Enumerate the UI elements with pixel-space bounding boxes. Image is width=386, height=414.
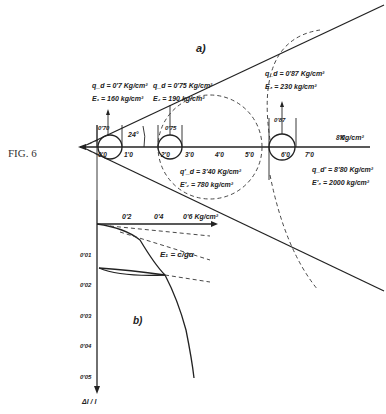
tick-8: 8'0	[336, 134, 345, 141]
up-arrow-icon	[280, 101, 284, 107]
y-tick-5: 0'05	[80, 374, 92, 380]
circle-3-width: 0'87	[274, 117, 286, 123]
angle-label: 24°	[127, 131, 139, 138]
x-tick-1: 0'2	[122, 213, 132, 220]
y-tick-2: 0'02	[80, 282, 92, 288]
tick-1: 1'0	[124, 151, 133, 158]
x-tick-3: 0'6 Kg/cm²	[183, 213, 219, 221]
dashed-circle-3-qd: q_d' = 8'80 Kg/cm²	[312, 166, 374, 174]
tick-3: 3'0	[185, 151, 194, 158]
circle-3-qd: q_d = 0'87 Kg/cm²	[265, 70, 325, 78]
down-arrow-icon	[94, 386, 100, 394]
circle-3-E: E₃ = 230 kg/cm²	[265, 83, 317, 91]
dashed-circle-2-E: E'₂ = 780 kg/cm²	[180, 181, 234, 189]
y-axis-label: Δl / l	[81, 398, 97, 405]
figure-6-diagram: FIG. 6 a) Kg/cm² 0'0 1'0 2'0 3'0 4'0 5'0…	[0, 0, 386, 414]
tick-6: 6'0	[281, 151, 290, 158]
tick-4: 4'0	[214, 151, 224, 158]
figure-label: FIG. 6	[8, 147, 37, 159]
dashed-circle-2-qd: q'_d = 3'40 Kg/cm²	[180, 168, 242, 176]
dashed-circle-3-E: E'₃ = 2000 kg/cm²	[312, 179, 370, 187]
curve-label: E₁ = c/gα	[160, 250, 195, 259]
tick-2: 2'0	[160, 151, 170, 158]
upper-envelope-line	[82, 5, 384, 147]
circle-1-qd: q_d = 0'7 Kg/cm²	[92, 82, 148, 90]
y-tick-3: 0'03	[80, 313, 92, 319]
y-tick-4: 0'04	[80, 343, 92, 349]
dashed-circle-3-lower	[270, 175, 318, 290]
tick-5: 5'0	[245, 151, 254, 158]
circle-2-width: 0'75	[165, 125, 177, 131]
right-arrow-icon	[211, 221, 218, 227]
circle-1-E: E₁ = 160 kg/cm²	[92, 95, 144, 103]
stress-strain-curve	[97, 224, 194, 378]
circle-1-width: 0'70	[98, 125, 110, 131]
angle-arc	[143, 126, 145, 147]
tick-7: 7'0	[305, 151, 314, 158]
y-tick-1: 0'01	[80, 252, 92, 258]
x-tick-2: 0'4	[154, 213, 164, 220]
panel-a-label: a)	[196, 42, 206, 54]
tangent-dash-3	[165, 275, 210, 282]
axis-arrow-icon	[78, 144, 86, 150]
up-arrow-icon	[106, 109, 110, 115]
circle-2-qd: q_d = 0'75 Kg/cm²	[153, 82, 213, 90]
panel-b-label: b)	[133, 315, 143, 326]
